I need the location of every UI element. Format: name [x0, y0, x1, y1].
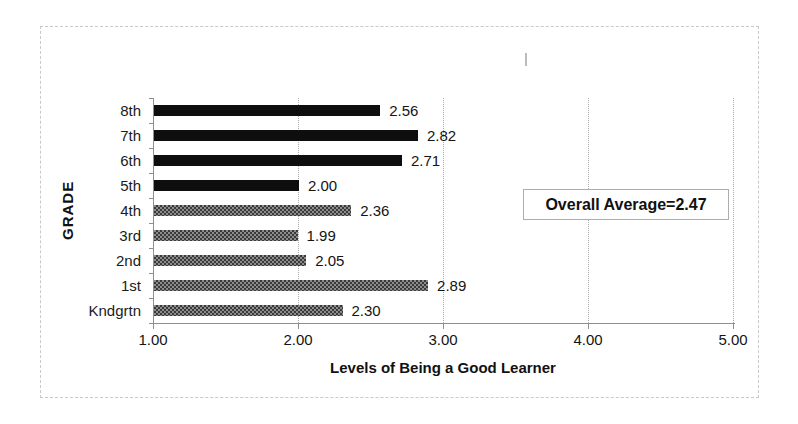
- bar-6th: [154, 155, 402, 166]
- value-label: 2.71: [411, 148, 440, 173]
- y-axis-tick: [149, 173, 153, 174]
- x-axis-tick: [443, 323, 444, 329]
- category-label: 6th: [41, 148, 141, 173]
- category-label: 1st: [41, 273, 141, 298]
- value-label: 2.36: [360, 198, 389, 223]
- y-axis-tick: [149, 298, 153, 299]
- stray-mark-artifact: [525, 53, 527, 66]
- overall-average-text: Overall Average=2.47: [545, 196, 706, 214]
- bar-1st: [154, 280, 428, 291]
- category-label: 3rd: [41, 223, 141, 248]
- x-axis-tick: [153, 323, 154, 329]
- value-label: 2.82: [427, 123, 456, 148]
- bar-8th: [154, 105, 380, 116]
- value-label: 2.00: [308, 173, 337, 198]
- overall-average-annotation: Overall Average=2.47: [523, 189, 729, 220]
- category-label: 4th: [41, 198, 141, 223]
- x-axis-tick: [588, 323, 589, 329]
- chart-screenshot: GRADE Levels of Being a Good Learner Ove…: [0, 0, 798, 424]
- bar-kndgrtn: [154, 305, 343, 316]
- y-axis-tick: [149, 148, 153, 149]
- chart-frame: GRADE Levels of Being a Good Learner Ove…: [40, 26, 759, 398]
- y-axis-tick: [149, 98, 153, 99]
- bar-4th: [154, 205, 351, 216]
- gridline: [733, 98, 734, 323]
- category-label: 7th: [41, 123, 141, 148]
- bar-7th: [154, 130, 418, 141]
- category-label: 8th: [41, 98, 141, 123]
- x-tick-label: 1.00: [123, 331, 183, 348]
- category-label: 5th: [41, 173, 141, 198]
- bar-3rd: [154, 230, 298, 241]
- y-axis-tick: [149, 223, 153, 224]
- category-label: Kndgrtn: [41, 298, 141, 323]
- y-axis-tick: [149, 198, 153, 199]
- x-axis-tick: [298, 323, 299, 329]
- x-axis-title: Levels of Being a Good Learner: [153, 359, 733, 376]
- category-label: 2nd: [41, 248, 141, 273]
- x-tick-label: 5.00: [703, 331, 763, 348]
- value-label: 2.89: [437, 273, 466, 298]
- value-label: 1.99: [307, 223, 336, 248]
- y-axis-tick: [149, 123, 153, 124]
- x-tick-label: 4.00: [558, 331, 618, 348]
- value-label: 2.05: [315, 248, 344, 273]
- y-axis-tick: [149, 248, 153, 249]
- x-tick-label: 3.00: [413, 331, 473, 348]
- y-axis-tick: [149, 273, 153, 274]
- value-label: 2.56: [389, 98, 418, 123]
- bar-5th: [154, 180, 299, 191]
- x-tick-label: 2.00: [268, 331, 328, 348]
- value-label: 2.30: [352, 298, 381, 323]
- bar-2nd: [154, 255, 306, 266]
- x-axis-tick: [733, 323, 734, 329]
